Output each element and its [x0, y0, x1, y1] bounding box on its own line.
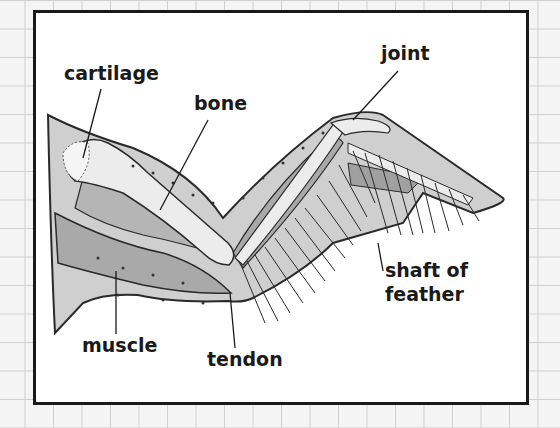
label-cartilage: cartilage	[64, 63, 159, 84]
label-shaft-line2: feather	[385, 284, 468, 305]
label-muscle: muscle	[82, 335, 157, 356]
label-joint: joint	[381, 43, 430, 64]
shaft-leader	[378, 243, 383, 271]
label-tendon: tendon	[207, 349, 283, 370]
label-shaft-line1: shaft of	[385, 260, 468, 281]
label-shaft-of-feather: shaft of feather	[385, 260, 468, 305]
label-bone: bone	[194, 93, 247, 114]
